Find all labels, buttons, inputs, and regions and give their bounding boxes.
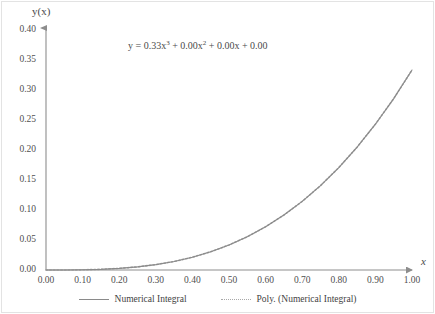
legend-label: Numerical Integral <box>115 294 187 304</box>
legend-item-poly-numerical-integral[interactable]: Poly. (Numerical Integral) <box>221 294 357 304</box>
x-tick-label: 0.00 <box>26 275 66 285</box>
x-tick-label: 0.80 <box>319 275 359 285</box>
data-series-poly-numerical-integral <box>46 70 412 270</box>
y-tick-label: 0.20 <box>8 144 36 154</box>
legend-item-numerical-integral[interactable]: Numerical Integral <box>79 294 187 304</box>
y-tick-label: 0.25 <box>8 114 36 124</box>
x-tick-label: 0.30 <box>136 275 176 285</box>
legend-line-dotted-icon <box>221 299 251 300</box>
y-tick-label: 0.35 <box>8 54 36 64</box>
y-tick-label: 0.30 <box>8 84 36 94</box>
chart-legend: Numerical Integral Poly. (Numerical Inte… <box>0 294 435 304</box>
x-tick-label: 0.60 <box>246 275 286 285</box>
legend-line-solid-icon <box>79 299 109 300</box>
x-tick-label: 0.50 <box>209 275 249 285</box>
y-tick-label: 0.15 <box>8 174 36 184</box>
y-tick-label: 0.40 <box>8 24 36 34</box>
y-tick-label: 0.05 <box>8 234 36 244</box>
plot-area <box>0 0 435 314</box>
y-tick-label: 0.10 <box>8 204 36 214</box>
chart-container: y(x) x y = 0.33x3 + 0.00x2 + 0.00x + 0.0… <box>0 0 435 314</box>
data-series-numerical-integral <box>46 70 412 270</box>
x-tick-label: 0.70 <box>282 275 322 285</box>
x-tick-label: 0.20 <box>99 275 139 285</box>
x-tick-label: 0.40 <box>172 275 212 285</box>
legend-label: Poly. (Numerical Integral) <box>257 294 357 304</box>
x-tick-label: 0.10 <box>63 275 103 285</box>
y-tick-label: 0.00 <box>8 264 36 274</box>
x-tick-label: 0.90 <box>355 275 395 285</box>
x-tick-label: 1.00 <box>392 275 432 285</box>
